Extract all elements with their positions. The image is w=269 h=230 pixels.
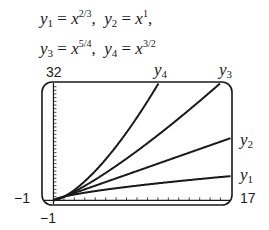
plot-area [0,0,269,230]
curve-y3 [53,84,220,201]
curves [53,84,230,201]
